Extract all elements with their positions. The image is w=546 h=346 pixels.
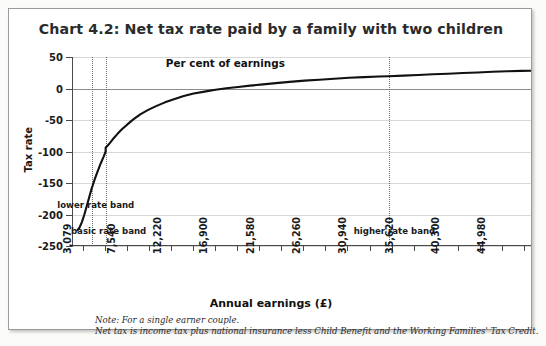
x-tick: [524, 246, 525, 251]
x-axis-line: [72, 245, 531, 246]
lower-rate-band: lower rate band: [57, 200, 134, 210]
series-label: Per cent of earnings: [166, 57, 285, 69]
x-tick: [259, 246, 260, 251]
y-tick-label--50: -50: [45, 115, 63, 126]
footnote-1: Note: For a single earner couple.: [95, 315, 525, 326]
x-tick: [303, 246, 304, 251]
x-tick: [281, 246, 282, 251]
x-tick-label-4: 21,580: [244, 217, 255, 254]
chart-card: Chart 4.2: Net tax rate paid by a family…: [8, 8, 532, 330]
y-axis-title: Tax rate: [23, 127, 34, 172]
x-tick-label-5: 26,260: [290, 217, 301, 254]
x-tick: [347, 246, 348, 251]
x-tick: [83, 246, 84, 251]
chart-page: Chart 4.2: Net tax rate paid by a family…: [0, 0, 546, 346]
net-tax-rate-line: [72, 57, 531, 246]
x-tick: [237, 246, 238, 251]
higher-rate-band: higher rate band: [354, 226, 436, 236]
x-tick: [370, 246, 371, 251]
y-tick--150: [66, 183, 72, 184]
y-tick-label--100: -100: [38, 146, 63, 157]
y-tick--50: [66, 120, 72, 121]
y-axis-line: [72, 57, 73, 246]
x-tick-label-9: 44,980: [476, 217, 487, 254]
y-tick-label--150: -150: [38, 178, 63, 189]
x-tick: [193, 246, 194, 251]
x-tick: [458, 246, 459, 251]
x-tick-label-2: 12,220: [152, 217, 163, 254]
y-tick-50: [66, 57, 72, 58]
x-tick: [414, 246, 415, 251]
gridline-y--250: [72, 246, 531, 247]
y-tick-0: [66, 89, 72, 90]
x-tick: [215, 246, 216, 251]
x-tick: [127, 246, 128, 251]
x-tick-label-3: 16,900: [198, 217, 209, 254]
footnote-2: Net tax is income tax plus national insu…: [95, 326, 525, 337]
x-tick: [171, 246, 172, 251]
x-tick: [325, 246, 326, 251]
y-tick-label--250: -250: [38, 241, 63, 252]
y-tick-label-50: 50: [49, 52, 63, 63]
page-title: Chart 4.2: Net tax rate paid by a family…: [9, 21, 533, 37]
y-tick-label-0: 0: [56, 83, 63, 94]
x-tick: [149, 246, 150, 251]
x-tick-label-6: 30,940: [337, 217, 348, 254]
y-tick--200: [66, 215, 72, 216]
footnotes: Note: For a single earner couple. Net ta…: [95, 315, 525, 338]
x-axis-title: Annual earnings (£): [9, 297, 533, 310]
basic-rate-band: basic rate band: [71, 226, 146, 236]
y-tick-label--200: -200: [38, 209, 63, 220]
x-tick: [502, 246, 503, 251]
y-tick--100: [66, 152, 72, 153]
plot-area: 500-50-100-150-200-250 3,0797,54012,2201…: [72, 57, 531, 246]
